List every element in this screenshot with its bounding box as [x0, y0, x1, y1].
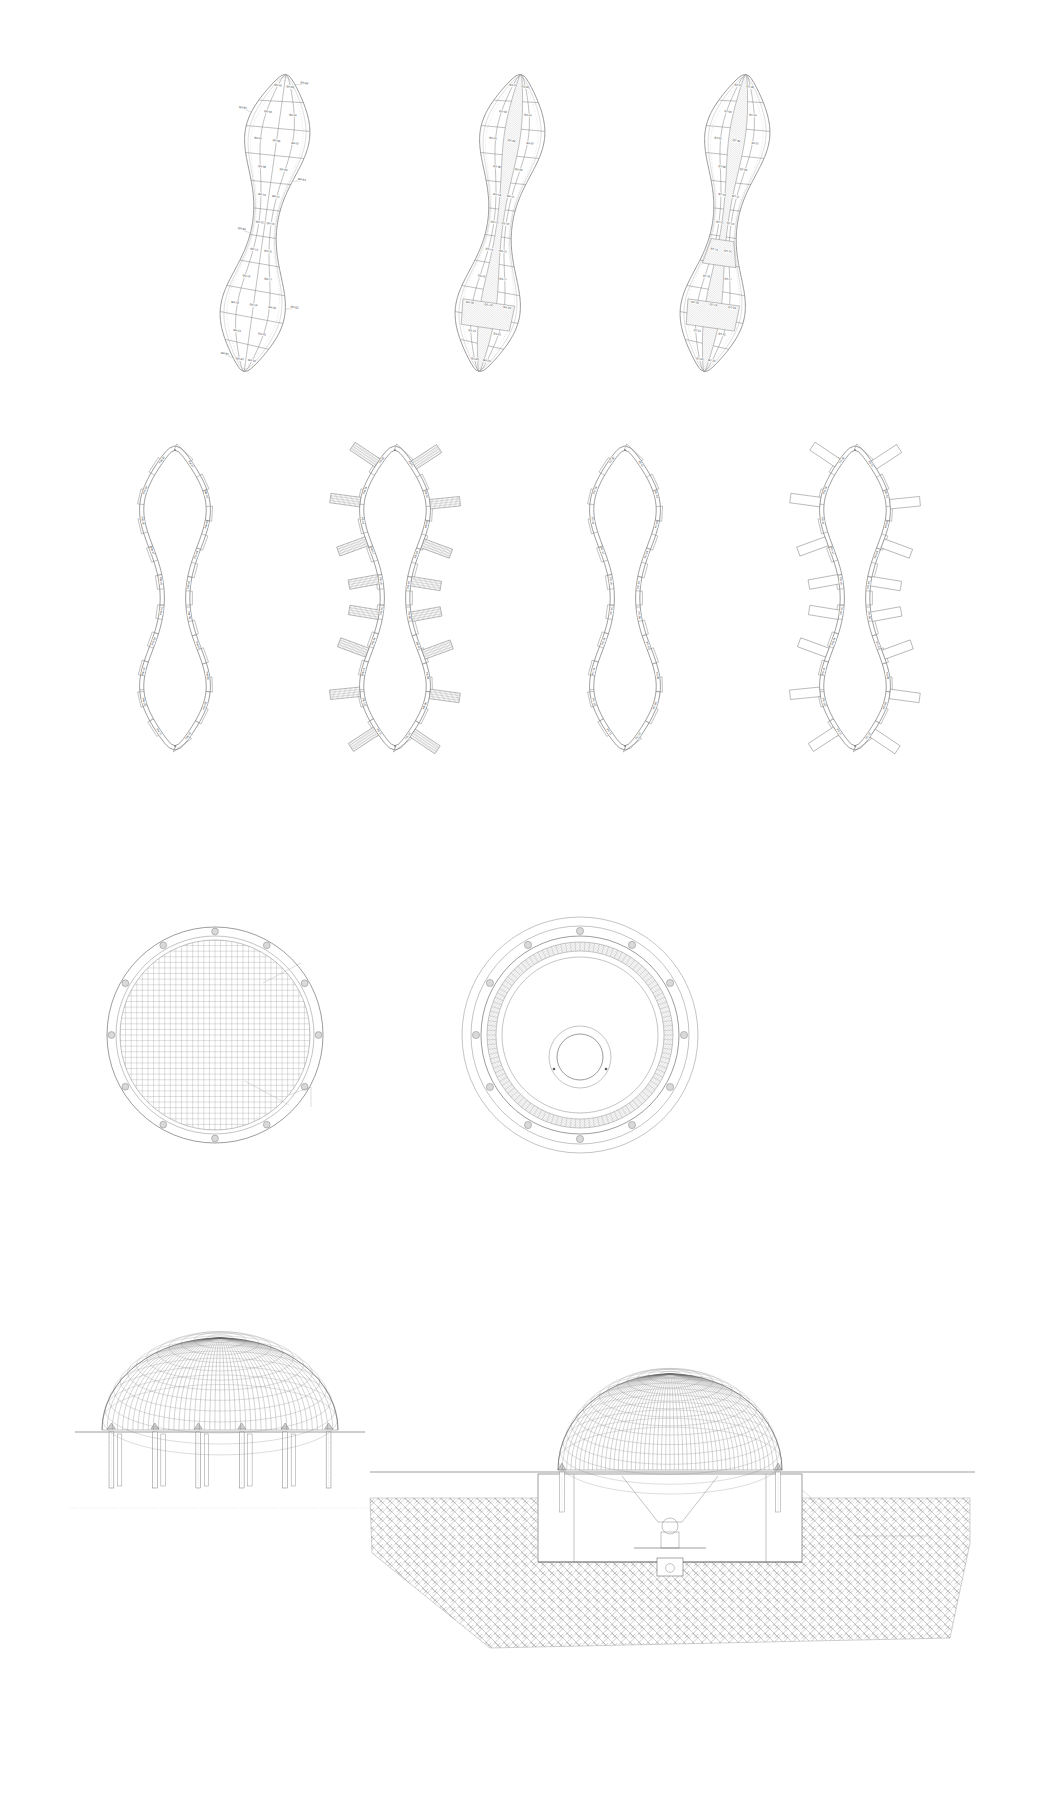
fig9	[462, 917, 698, 1153]
svg-text:PW-02: PW-02	[203, 490, 209, 499]
svg-text:GR-13: GR-13	[266, 221, 275, 226]
buttress-fin	[810, 442, 840, 467]
row-1-panelised-plans: GR-01GR-02GR-03GR-04GR-05GR-06GR-07GR-08…	[170, 48, 870, 398]
buttress-fin	[429, 689, 460, 702]
svg-text:GR-05: GR-05	[254, 135, 263, 140]
ring-node	[472, 1031, 479, 1038]
svg-text:GT-02: GT-02	[746, 84, 754, 89]
ring-node	[576, 927, 583, 934]
ring-node	[122, 1083, 129, 1090]
row-4-sections	[70, 1280, 1030, 1780]
svg-text:GR-04: GR-04	[289, 112, 298, 117]
fig1: GR-01GR-02GR-03GR-04GR-05GR-06GR-07GR-08…	[203, 69, 331, 378]
svg-text:GR-E5: GR-E5	[239, 105, 248, 110]
row-3-circular-plans	[95, 900, 815, 1210]
svg-text:GT-09: GT-09	[740, 167, 748, 172]
ring-node	[263, 942, 270, 949]
buttress-fin	[870, 729, 900, 754]
ring-node	[160, 1121, 167, 1128]
svg-text:GR-24: GR-24	[248, 358, 257, 363]
svg-text:GS-22: GS-22	[493, 331, 502, 336]
svg-text:GT-16: GT-16	[703, 273, 711, 278]
svg-text:GR-08: GR-08	[258, 164, 267, 169]
svg-text:GT-03: GT-03	[724, 109, 732, 114]
svg-text:GR-E3: GR-E3	[238, 226, 247, 231]
buttress-fin	[808, 605, 839, 619]
ring-node	[524, 941, 531, 948]
buttress-fin	[797, 537, 828, 556]
svg-text:GT-11: GT-11	[732, 194, 740, 199]
svg-text:GT-04: GT-04	[749, 112, 757, 117]
svg-text:GS-07: GS-07	[526, 141, 535, 146]
ring-node	[108, 1032, 115, 1039]
svg-text:GR-01: GR-01	[274, 82, 283, 87]
ring-node	[628, 1121, 635, 1128]
svg-text:GR-12: GR-12	[256, 219, 265, 224]
svg-text:GR-E6: GR-E6	[300, 80, 309, 85]
fig4: PW-01PW-02PW-03PW-04PW-05PW-06PW-07PW-08…	[138, 444, 213, 752]
ring-node	[680, 1031, 687, 1038]
buttress-fin	[422, 640, 453, 659]
svg-text:GR-14: GR-14	[250, 247, 259, 252]
buttress-fin	[430, 496, 461, 508]
column-capital	[238, 1423, 246, 1429]
ring-node	[666, 1083, 673, 1090]
ring-node	[315, 1032, 322, 1039]
svg-text:PC-05: PC-05	[636, 580, 641, 588]
svg-text:GR-11: GR-11	[272, 194, 281, 199]
buttress-fin	[348, 575, 379, 590]
svg-text:GR-E4: GR-E4	[297, 177, 306, 182]
svg-text:GS-11: GS-11	[507, 194, 515, 199]
ring-node	[666, 979, 673, 986]
drawing-sheet: GR-01GR-02GR-03GR-04GR-05GR-06GR-07GR-08…	[0, 0, 1056, 1795]
svg-text:GR-E1: GR-E1	[221, 351, 230, 356]
svg-text:GR-19: GR-19	[249, 302, 258, 307]
ring-node	[212, 928, 219, 935]
svg-text:GR-07: GR-07	[291, 141, 300, 146]
buttress-fin	[337, 537, 368, 556]
buttress-fin	[871, 607, 902, 622]
svg-text:PC-19: PC-19	[592, 485, 598, 494]
svg-text:PW-03: PW-03	[203, 520, 209, 529]
svg-text:GS-24: GS-24	[483, 358, 492, 363]
buttress-fin	[790, 493, 821, 506]
ring-node	[576, 1135, 583, 1142]
row-2-perimeter-plans: PW-01PW-02PW-03PW-04PW-05PW-06PW-07PW-08…	[55, 398, 1015, 798]
svg-text:GR-10: GR-10	[258, 192, 267, 197]
svg-text:GS-21: GS-21	[468, 328, 477, 333]
ring-node	[301, 980, 308, 987]
svg-text:GS-16: GS-16	[478, 273, 487, 278]
svg-text:GS-17: GS-17	[499, 276, 508, 281]
fig11	[370, 1463, 975, 1648]
fig8	[107, 927, 323, 1143]
svg-text:GR-03: GR-03	[264, 109, 273, 114]
fig7: PD-01PD-02PD-03PD-04PD-05PD-06PD-07PD-08…	[790, 442, 921, 754]
buttress-fin	[881, 539, 912, 558]
buttress-fin	[348, 605, 379, 619]
buttress-fin	[882, 640, 913, 659]
svg-text:GR-21: GR-21	[233, 328, 242, 333]
ring-node	[122, 980, 129, 987]
svg-text:GR-02: GR-02	[286, 84, 295, 89]
svg-text:GT-24: GT-24	[708, 358, 716, 363]
column-capital	[107, 1423, 115, 1429]
ring-node	[212, 1135, 219, 1142]
svg-text:PB-19: PB-19	[362, 486, 368, 495]
svg-text:GR-22: GR-22	[258, 331, 267, 336]
ring-node	[524, 1121, 531, 1128]
svg-text:GT-07: GT-07	[751, 141, 759, 146]
svg-text:PW-05: PW-05	[186, 580, 191, 589]
column-capital	[325, 1423, 333, 1429]
buttress-fin	[410, 729, 440, 754]
column-capital	[194, 1423, 202, 1429]
svg-text:GR-16: GR-16	[242, 273, 251, 278]
buttress-fin	[808, 727, 838, 751]
buttress-fin	[870, 577, 901, 591]
fig6: PC-01PC-02PC-03PC-04PC-05PC-06PC-07PC-08…	[588, 444, 663, 752]
svg-text:GT-17: GT-17	[724, 276, 732, 281]
svg-text:GS-15: GS-15	[499, 249, 508, 254]
svg-text:GR-06: GR-06	[272, 138, 281, 143]
ring-node	[628, 941, 635, 948]
buttress-fin	[411, 607, 442, 622]
buttress-fin	[790, 687, 821, 699]
